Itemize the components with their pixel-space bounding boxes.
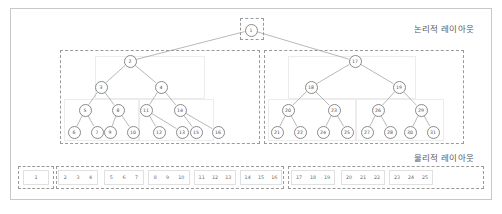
physical-value-9: 9 <box>166 175 169 180</box>
physical-value-12: 12 <box>212 175 218 180</box>
tree-node-2: 2 <box>124 55 137 68</box>
pc-6: 141516 <box>240 170 282 185</box>
tree-node-11: 11 <box>140 104 153 117</box>
pc-2: 234 <box>58 170 98 185</box>
tree-node-1: 1 <box>245 24 258 37</box>
tree-node-21: 21 <box>271 126 284 139</box>
physical-value-4: 4 <box>89 175 92 180</box>
physical-value-19: 19 <box>324 175 330 180</box>
physical-value-3: 3 <box>76 175 79 180</box>
tree-node-3: 3 <box>95 81 108 94</box>
tree-node-29: 29 <box>415 104 428 117</box>
pc-5: 111213 <box>194 170 236 185</box>
tree-node-17: 17 <box>349 55 362 68</box>
tree-node-19: 19 <box>393 81 406 94</box>
physical-value-23: 23 <box>394 175 400 180</box>
tree-node-10: 10 <box>127 126 140 139</box>
physical-value-24: 24 <box>408 175 414 180</box>
tree-node-13: 13 <box>176 126 189 139</box>
tree-node-16: 16 <box>212 126 225 139</box>
physical-value-1: 1 <box>34 175 37 180</box>
pc-1: 1 <box>23 170 49 185</box>
physical-layout-caption: 물리적 레이아웃 <box>414 151 474 163</box>
diagram-canvas: 논리적 레이아웃 물리적 레이아웃 1217341819581114202326… <box>0 0 502 214</box>
physical-value-8: 8 <box>154 175 157 180</box>
tree-node-9: 9 <box>104 126 117 139</box>
tree-node-4: 4 <box>155 81 168 94</box>
tree-node-27: 27 <box>361 126 374 139</box>
logical-layout-caption: 논리적 레이아웃 <box>414 22 474 34</box>
pc-9: 232425 <box>389 170 433 185</box>
pc-4: 8910 <box>148 170 190 185</box>
tree-node-20: 20 <box>282 104 295 117</box>
physical-value-16: 16 <box>271 175 277 180</box>
physical-value-10: 10 <box>178 175 184 180</box>
physical-value-6: 6 <box>122 175 125 180</box>
tree-node-7: 7 <box>91 126 104 139</box>
pc-8: 202122 <box>341 170 385 185</box>
pc-7: 171819 <box>291 170 335 185</box>
tree-node-25: 25 <box>341 126 354 139</box>
tree-node-6: 6 <box>68 126 81 139</box>
physical-value-18: 18 <box>310 175 316 180</box>
physical-value-15: 15 <box>258 175 264 180</box>
tree-node-24: 24 <box>317 126 330 139</box>
tree-node-31: 31 <box>427 126 440 139</box>
physical-value-21: 21 <box>360 175 366 180</box>
physical-value-17: 17 <box>296 175 302 180</box>
physical-value-2: 2 <box>64 175 67 180</box>
physical-value-20: 20 <box>346 175 352 180</box>
physical-value-25: 25 <box>422 175 428 180</box>
tree-node-12: 12 <box>153 126 166 139</box>
physical-value-7: 7 <box>135 175 138 180</box>
pc-3: 567 <box>104 170 144 185</box>
tree-node-5: 5 <box>79 104 92 117</box>
tree-node-14: 14 <box>174 104 187 117</box>
physical-value-11: 11 <box>199 175 205 180</box>
tree-node-15: 15 <box>190 126 203 139</box>
physical-value-14: 14 <box>245 175 251 180</box>
tree-node-30: 30 <box>404 126 417 139</box>
physical-value-22: 22 <box>374 175 380 180</box>
tree-node-23: 23 <box>328 104 341 117</box>
physical-value-13: 13 <box>225 175 231 180</box>
tree-node-22: 22 <box>294 126 307 139</box>
tree-node-8: 8 <box>112 104 125 117</box>
tree-node-18: 18 <box>305 81 318 94</box>
physical-value-5: 5 <box>110 175 113 180</box>
tree-node-26: 26 <box>372 104 385 117</box>
tree-node-28: 28 <box>384 126 397 139</box>
